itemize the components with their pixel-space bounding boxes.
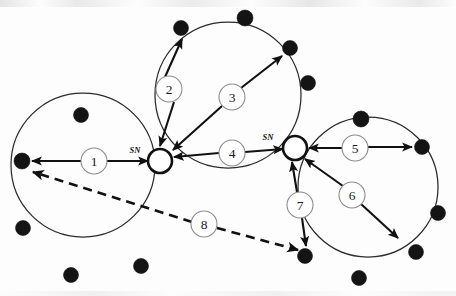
edge-label-text-2: 2 xyxy=(166,82,173,97)
edge-label-text-1: 1 xyxy=(91,154,98,169)
edge-label-text-6: 6 xyxy=(349,188,356,203)
peer-node-p-r3[interactable] xyxy=(431,206,446,221)
peer-node-p-t4[interactable] xyxy=(301,76,316,91)
edge-3-segment-1 xyxy=(241,56,282,88)
edge-label-text-5: 5 xyxy=(352,141,359,156)
edge-labels-layer: 12345678 xyxy=(81,76,368,237)
network-topology-diagram: SNSN 12345678 xyxy=(0,0,456,296)
edge-8-segment-1 xyxy=(33,172,192,222)
edge-6-segment-2 xyxy=(361,204,398,238)
edge-label-text-8: 8 xyxy=(201,217,208,232)
super-node-label-sn-left: SN xyxy=(130,145,142,155)
peer-node-p-r1[interactable] xyxy=(353,111,369,127)
ring-overlay-right-ring xyxy=(298,117,438,257)
peer-node-p-l1[interactable] xyxy=(74,108,89,123)
peer-node-p-r6[interactable] xyxy=(298,249,313,264)
super-node-sn-right[interactable] xyxy=(283,136,307,160)
edge-7-segment-1 xyxy=(292,162,297,192)
peer-node-p-r4[interactable] xyxy=(409,245,424,260)
peer-node-p-t3[interactable] xyxy=(283,41,298,56)
super-node-label-sn-right: SN xyxy=(263,132,275,142)
ring-overlays-layer xyxy=(11,22,438,257)
peer-node-p-r5[interactable] xyxy=(352,271,367,286)
edge-2-segment-1 xyxy=(165,39,182,77)
edge-4-segment-2 xyxy=(245,149,283,152)
edge-7-segment-2 xyxy=(302,218,306,246)
peer-node-p-t1[interactable] xyxy=(174,21,189,36)
peer-node-p-l5[interactable] xyxy=(134,259,149,274)
edge-8-segment-2 xyxy=(217,228,298,250)
peer-node-p-r2[interactable] xyxy=(415,140,430,155)
edge-label-text-4: 4 xyxy=(229,146,236,161)
edge-label-text-3: 3 xyxy=(229,90,236,105)
edge-3-segment-2 xyxy=(173,106,222,150)
edge-4-segment-1 xyxy=(174,153,219,157)
peer-node-p-l3[interactable] xyxy=(16,221,31,236)
peer-node-p-l4[interactable] xyxy=(64,268,79,283)
peer-node-p-t2[interactable] xyxy=(237,10,253,26)
peer-node-p-l2[interactable] xyxy=(14,153,30,169)
super-node-sn-left[interactable] xyxy=(148,149,172,173)
edge-6-segment-1 xyxy=(305,159,343,186)
edge-label-text-7: 7 xyxy=(297,198,304,213)
edge-2-segment-2 xyxy=(160,102,174,146)
diagram-canvas: SNSN 12345678 xyxy=(0,0,456,296)
